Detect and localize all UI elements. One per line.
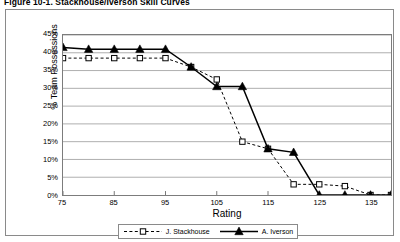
plot-area	[62, 34, 392, 196]
x-tick-label: 75	[47, 199, 77, 207]
chart-legend: J. StackhouseA. Iverson	[118, 224, 298, 239]
chart-frame: % Team Possessions 0%5%10%15%20%25%30%35…	[5, 9, 394, 236]
y-tick-label: 45%	[30, 30, 58, 38]
y-tick-label: 35%	[30, 66, 58, 74]
data-point-marker	[240, 139, 245, 144]
series-line	[63, 47, 391, 195]
legend-entry: A. Iverson	[219, 226, 294, 237]
data-point-marker	[342, 183, 347, 188]
data-point-marker	[163, 55, 168, 60]
data-point-marker	[63, 55, 66, 60]
y-tick-label: 30%	[30, 84, 58, 92]
legend-swatch-dashed	[123, 226, 163, 237]
x-tick-label: 115	[253, 199, 283, 207]
y-tick-label: 5%	[30, 174, 58, 182]
series-j-stackhouse	[63, 55, 391, 195]
data-point-marker	[291, 182, 296, 187]
plot-svg	[63, 35, 391, 195]
legend-label: J. Stackhouse	[166, 228, 210, 235]
y-tick-label: 20%	[30, 120, 58, 128]
series-line	[63, 58, 391, 195]
legend-label: A. Iverson	[262, 228, 294, 235]
legend-entry: J. Stackhouse	[123, 226, 210, 237]
x-tick-label: 135	[356, 199, 386, 207]
data-point-marker	[86, 55, 91, 60]
data-point-marker	[214, 77, 219, 82]
data-point-marker	[112, 55, 117, 60]
y-tick-label: 25%	[30, 102, 58, 110]
series-a-iverson	[63, 43, 391, 195]
x-tick-label: 105	[202, 199, 232, 207]
y-tick-label: 40%	[30, 48, 58, 56]
legend-swatch-solid	[219, 226, 259, 237]
data-point-marker	[317, 182, 322, 187]
chart-screenshot: Figure 10-1. Stackhouse/Iverson Skill Cu…	[0, 0, 400, 242]
data-point-marker	[137, 55, 142, 60]
data-point-marker	[63, 43, 67, 51]
x-tick-label: 125	[305, 199, 335, 207]
data-point-marker	[140, 229, 145, 234]
y-tick-label: 10%	[30, 156, 58, 164]
x-tick-label: 95	[150, 199, 180, 207]
y-tick-label: 15%	[30, 138, 58, 146]
x-axis-title: Rating	[62, 208, 392, 219]
x-tick-label: 85	[99, 199, 129, 207]
figure-caption: Figure 10-1. Stackhouse/Iverson Skill Cu…	[4, 0, 190, 7]
